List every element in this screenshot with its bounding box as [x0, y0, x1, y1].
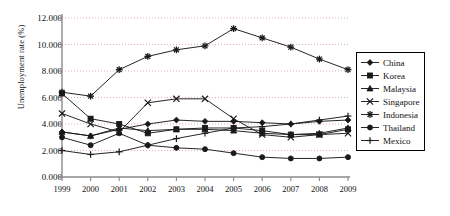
legend-item-mexico[interactable]: Mexico [360, 134, 420, 147]
data-point-asterisk [367, 111, 374, 118]
data-point-asterisk [316, 56, 323, 63]
data-point-circle [288, 156, 293, 161]
data-point-asterisk [173, 46, 180, 53]
data-point-diamond [145, 121, 151, 127]
data-point-circle [203, 147, 208, 152]
data-point-circle [174, 145, 179, 150]
legend-item-label: China [380, 58, 405, 68]
data-point-plus [116, 149, 123, 156]
data-point-circle [368, 125, 373, 130]
data-point-asterisk [259, 34, 266, 41]
legend-item-label: Singapore [380, 97, 420, 107]
legend-item-label: Malaysia [380, 84, 416, 94]
data-point-asterisk [202, 42, 209, 49]
data-point-plus [59, 147, 66, 154]
chart-legend: ChinaKoreaMalaysiaSingaporeIndonesiaThai… [356, 52, 425, 151]
data-point-asterisk [87, 93, 94, 100]
legend-marker-icon [360, 69, 380, 82]
legend-item-label: Indonesia [380, 110, 418, 120]
legend-item-singapore[interactable]: Singapore [360, 95, 420, 108]
data-point-plus [288, 121, 295, 128]
legend-marker-icon [360, 108, 380, 121]
legend-item-indonesia[interactable]: Indonesia [360, 108, 420, 121]
legend-marker-icon [360, 95, 380, 108]
data-point-circle [60, 135, 65, 140]
legend-item-label: Mexico [380, 136, 411, 146]
legend-marker-icon [360, 134, 380, 147]
legend-item-china[interactable]: China [360, 56, 420, 69]
data-point-circle [231, 151, 236, 156]
data-point-asterisk [287, 44, 294, 51]
series-indonesia [59, 25, 352, 99]
data-point-diamond [202, 118, 208, 124]
data-point-asterisk [59, 89, 66, 96]
data-point-square [88, 116, 93, 121]
legend-item-malaysia[interactable]: Malaysia [360, 82, 420, 95]
data-point-diamond [174, 117, 180, 123]
legend-item-label: Thailand [380, 123, 415, 133]
legend-marker-icon [360, 82, 380, 95]
data-point-circle [117, 131, 122, 136]
legend-marker-icon [360, 56, 380, 69]
legend-item-label: Korea [380, 71, 405, 81]
data-point-plus [145, 142, 152, 149]
data-point-diamond [367, 60, 373, 66]
legend-marker-icon [360, 121, 380, 134]
data-point-asterisk [345, 66, 352, 73]
data-point-plus [87, 151, 94, 158]
data-point-asterisk [116, 66, 123, 73]
data-point-asterisk [144, 53, 151, 60]
series-line [62, 133, 348, 158]
data-point-circle [88, 143, 93, 148]
data-point-circle [260, 155, 265, 160]
legend-item-thailand[interactable]: Thailand [360, 121, 420, 134]
data-point-asterisk [230, 25, 237, 32]
unemployment-rate-line-chart: Unemployment rate (%) 0.0002.0004.0006.0… [0, 0, 450, 216]
data-point-plus [345, 113, 352, 120]
data-point-circle [317, 156, 322, 161]
legend-item-korea[interactable]: Korea [360, 69, 420, 82]
data-point-plus [173, 135, 180, 142]
data-point-circle [346, 155, 351, 160]
series-line [62, 29, 348, 97]
data-point-square [368, 73, 373, 78]
data-point-plus [367, 137, 374, 144]
